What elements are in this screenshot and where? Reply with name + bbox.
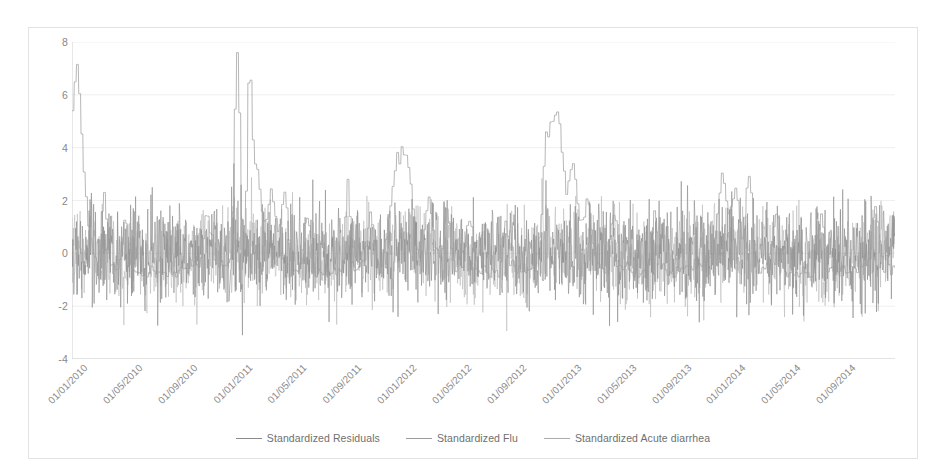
x-axis-tick-label: 01/01/2012: [375, 362, 419, 406]
legend-swatch-line-icon: [406, 438, 432, 439]
y-axis-tick-label: -4: [38, 353, 68, 365]
figure-container: 86420-2-4 01/01/201001/05/201001/09/2010…: [0, 0, 949, 473]
x-axis: 01/01/201001/05/201001/09/201001/01/2011…: [72, 362, 895, 422]
x-axis-tick-label: 01/01/2013: [540, 362, 584, 406]
legend-item[interactable]: Standardized Acute diarrhea: [544, 432, 710, 444]
y-axis: 86420-2-4: [36, 42, 68, 359]
legend-swatch-line-icon: [236, 438, 262, 439]
legend-swatch-line-icon: [544, 438, 570, 439]
y-axis-tick-label: -2: [38, 300, 68, 312]
legend-label: Standardized Residuals: [267, 432, 380, 444]
legend-label: Standardized Acute diarrhea: [575, 432, 710, 444]
chart-legend: Standardized ResidualsStandardized FluSt…: [28, 428, 918, 448]
legend-item[interactable]: Standardized Residuals: [236, 432, 380, 444]
x-axis-tick-label: 01/09/2013: [649, 362, 693, 406]
x-axis-tick-label: 01/05/2014: [759, 362, 803, 406]
plot-area: [72, 42, 895, 359]
x-axis-tick-label: 01/05/2013: [595, 362, 639, 406]
y-axis-tick-label: 0: [38, 247, 68, 259]
gridlines: [72, 42, 895, 359]
y-axis-tick-label: 6: [38, 89, 68, 101]
y-axis-tick-label: 4: [38, 142, 68, 154]
legend-label: Standardized Flu: [437, 432, 518, 444]
x-axis-tick-label: 01/05/2010: [101, 362, 145, 406]
series-line-standardized-residuals: [72, 164, 895, 336]
y-axis-tick-label: 2: [38, 195, 68, 207]
y-axis-tick-label: 8: [38, 36, 68, 48]
x-axis-tick-label: 01/01/2014: [704, 362, 748, 406]
x-axis-tick-label: 01/05/2011: [266, 362, 309, 405]
x-axis-tick-label: 01/09/2010: [156, 362, 200, 406]
x-axis-tick-label: 01/05/2012: [430, 362, 474, 406]
legend-item[interactable]: Standardized Flu: [406, 432, 518, 444]
x-axis-tick-label: 01/01/2011: [211, 362, 254, 405]
chart-canvas: [72, 42, 895, 359]
x-axis-tick-label: 01/09/2012: [485, 362, 529, 406]
x-axis-tick-label: 01/09/2014: [814, 362, 858, 406]
x-axis-tick-label: 01/09/2011: [321, 362, 364, 405]
